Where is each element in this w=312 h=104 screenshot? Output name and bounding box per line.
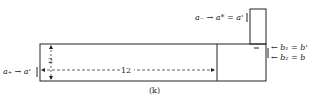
arrow-right-icon bbox=[211, 68, 215, 72]
top-input-label: a₋ → a* = a' bbox=[195, 13, 243, 22]
left-input-label: a₊ → a' bbox=[3, 67, 31, 76]
height-dim-label: 2 bbox=[48, 56, 53, 65]
width-dim-label: 12 bbox=[121, 66, 131, 75]
arrow-down-icon bbox=[49, 76, 53, 80]
arrow-up-icon bbox=[49, 45, 53, 49]
main-rectangle bbox=[40, 44, 266, 81]
tall-box bbox=[250, 9, 266, 44]
right-b2-label: ← b₂ = b bbox=[271, 53, 305, 62]
caption: (k) bbox=[149, 86, 160, 95]
arrow-left-icon bbox=[41, 68, 45, 72]
right-b1-label: ← b₁ = b' bbox=[271, 43, 308, 52]
